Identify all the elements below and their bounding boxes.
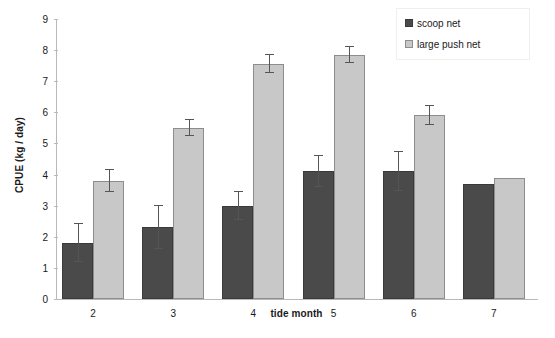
y-axis-tick bbox=[54, 299, 58, 300]
error-bar bbox=[429, 106, 430, 299]
bar-group bbox=[383, 19, 445, 299]
y-axis-tick-label: 2 bbox=[42, 231, 48, 242]
y-axis-tick bbox=[54, 175, 58, 176]
plot-area: 0123456789 234567 bbox=[56, 19, 537, 299]
y-axis-tick bbox=[54, 206, 58, 207]
x-axis-title: tide month bbox=[56, 308, 537, 319]
error-bar bbox=[78, 224, 79, 299]
y-axis-tick bbox=[54, 237, 58, 238]
legend-swatch-icon bbox=[405, 19, 413, 27]
y-axis-tick bbox=[54, 81, 58, 82]
error-bar bbox=[158, 206, 159, 299]
error-bar bbox=[398, 152, 399, 299]
error-bar bbox=[269, 55, 270, 299]
bar-group bbox=[222, 19, 284, 299]
y-axis-tick-label: 1 bbox=[42, 262, 48, 273]
y-axis-tick bbox=[54, 143, 58, 144]
bar-group bbox=[463, 19, 525, 299]
error-bar bbox=[109, 170, 110, 299]
y-axis-tick-label: 5 bbox=[42, 138, 48, 149]
y-axis-tick-label: 4 bbox=[42, 169, 48, 180]
y-axis-tick bbox=[54, 50, 58, 51]
y-axis-tick-label: 6 bbox=[42, 107, 48, 118]
error-bar bbox=[349, 47, 350, 299]
y-axis-tick-label: 7 bbox=[42, 76, 48, 87]
error-bar bbox=[238, 192, 239, 299]
y-axis-tick bbox=[54, 112, 58, 113]
bar-group bbox=[62, 19, 124, 299]
x-axis-line bbox=[56, 299, 538, 300]
y-axis-tick bbox=[54, 268, 58, 269]
error-bar bbox=[318, 156, 319, 299]
y-axis-title: CPUE (kg / day) bbox=[14, 90, 25, 220]
legend-item-label: large push net bbox=[417, 39, 480, 50]
bar-group bbox=[303, 19, 365, 299]
bar bbox=[494, 178, 525, 299]
bar-group bbox=[142, 19, 204, 299]
legend-swatch-icon bbox=[405, 40, 413, 48]
y-axis-tick-label: 0 bbox=[42, 294, 48, 305]
y-axis-tick-label: 8 bbox=[42, 45, 48, 56]
y-axis-tick-label: 9 bbox=[42, 14, 48, 25]
error-bar bbox=[189, 120, 190, 299]
legend: scoop net large push net bbox=[396, 8, 530, 60]
y-axis-tick-label: 3 bbox=[42, 200, 48, 211]
legend-item-label: scoop net bbox=[417, 18, 460, 29]
legend-item-large-push-net: large push net bbox=[405, 37, 523, 51]
y-axis-tick bbox=[54, 19, 58, 20]
bar bbox=[463, 184, 494, 299]
bar-chart: CPUE (kg / day) 0123456789 234567 tide m… bbox=[0, 0, 555, 338]
legend-item-scoop-net: scoop net bbox=[405, 16, 523, 30]
